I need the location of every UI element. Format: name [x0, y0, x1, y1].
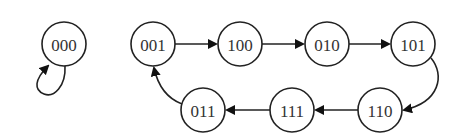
state-node-111: 111 — [270, 88, 314, 132]
state-label: 010 — [314, 36, 340, 55]
state-node-110: 110 — [358, 88, 402, 132]
state-label: 100 — [227, 36, 253, 55]
state-node-001: 001 — [131, 22, 175, 66]
state-node-100: 100 — [218, 22, 262, 66]
state-label: 011 — [191, 102, 216, 121]
state-node-010: 010 — [305, 22, 349, 66]
state-label: 111 — [280, 102, 304, 121]
state-node-101: 101 — [391, 22, 435, 66]
state-label: 001 — [140, 36, 166, 55]
state-diagram: 000 001 100 010 101 110 111 011 — [0, 0, 467, 140]
state-label: 000 — [51, 36, 77, 55]
state-node-000: 000 — [42, 22, 86, 66]
state-label: 101 — [400, 36, 426, 55]
edge-000-self-loop — [37, 66, 65, 95]
state-node-011: 011 — [181, 88, 225, 132]
edge-011-to-001 — [154, 68, 182, 104]
state-label: 110 — [368, 102, 393, 121]
